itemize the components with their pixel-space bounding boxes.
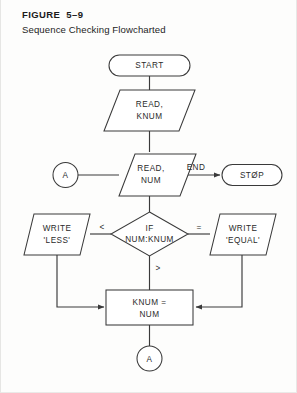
- node-start: START: [109, 55, 190, 76]
- node-read-num-line2: NUM: [141, 176, 161, 185]
- node-write-less-line2: 'LESS': [44, 236, 71, 245]
- node-assign: KNUM = NUM: [106, 290, 193, 325]
- edge-write-less-to-assign: [57, 255, 104, 307]
- node-connector-a-in: A: [53, 163, 78, 188]
- node-write-equal: WRITE 'EQUAL': [210, 214, 276, 255]
- edge-label-less-than: <: [99, 223, 104, 232]
- node-write-less-line1: WRITE: [43, 224, 72, 233]
- node-stop: STØP: [222, 165, 282, 186]
- node-write-equal-line1: WRITE: [229, 224, 258, 233]
- node-connector-a-out: A: [137, 346, 162, 371]
- node-stop-label: STØP: [240, 171, 264, 180]
- node-write-equal-line2: 'EQUAL': [226, 236, 260, 245]
- node-write-less: WRITE 'LESS': [24, 214, 90, 255]
- node-connector-a-in-label: A: [63, 171, 69, 180]
- edge-label-equal: =: [196, 223, 201, 232]
- figure-page: FIGURE 5–9 Sequence Checking Flowcharted: [0, 0, 297, 393]
- edge-write-equal-to-assign: [196, 255, 242, 307]
- node-decision-line2: NUM:KNUM: [125, 235, 174, 244]
- node-decision: IF NUM:KNUM: [111, 212, 188, 256]
- edge-label-end: END: [187, 163, 206, 172]
- edge-label-greater-than: >: [155, 264, 160, 273]
- flowchart-canvas: START READ, KNUM A READ, NUM END STØP: [1, 0, 297, 393]
- node-assign-line1: KNUM =: [133, 298, 167, 307]
- node-read-knum: READ, KNUM: [104, 90, 195, 131]
- node-connector-a-out-label: A: [147, 355, 153, 364]
- node-read-num-line1: READ,: [137, 164, 164, 173]
- node-assign-line2: NUM: [140, 310, 160, 319]
- node-read-num: READ, NUM: [119, 154, 196, 196]
- node-read-knum-line2: KNUM: [137, 112, 163, 121]
- node-start-label: START: [135, 61, 163, 70]
- node-decision-line1: IF: [145, 224, 153, 233]
- node-read-knum-line1: READ,: [136, 100, 163, 109]
